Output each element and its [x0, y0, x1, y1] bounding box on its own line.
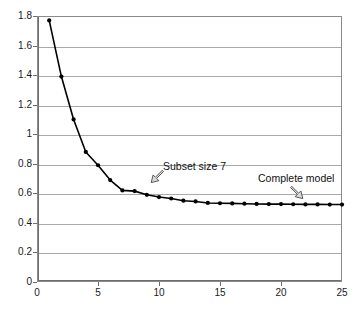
data-point: [230, 201, 234, 205]
data-point: [206, 201, 210, 205]
data-point: [84, 150, 88, 154]
data-point: [47, 18, 51, 22]
data-point: [279, 202, 283, 206]
data-point: [59, 74, 63, 78]
annotation-arrow-complete-icon: [288, 186, 306, 208]
annotation-subset-size: Subset size 7: [163, 160, 226, 172]
data-point: [316, 202, 320, 206]
data-point: [255, 202, 259, 206]
data-point: [242, 202, 246, 206]
data-point: [194, 199, 198, 203]
data-point: [218, 201, 222, 205]
data-point: [267, 202, 271, 206]
data-point: [72, 117, 76, 121]
annotation-arrow-subset-icon: [148, 170, 166, 192]
data-point: [120, 188, 124, 192]
data-point: [340, 202, 344, 206]
data-point: [328, 202, 332, 206]
annotation-complete-model: Complete model: [258, 172, 334, 184]
data-point: [169, 196, 173, 200]
data-point: [181, 199, 185, 203]
data-point: [133, 189, 137, 193]
data-point: [108, 178, 112, 182]
chart-container: 00.20.40.60.811.21.41.61.8 0510152025 Su…: [0, 0, 357, 315]
data-point: [157, 195, 161, 199]
data-point: [96, 163, 100, 167]
data-series: [0, 0, 357, 315]
data-point: [145, 193, 149, 197]
